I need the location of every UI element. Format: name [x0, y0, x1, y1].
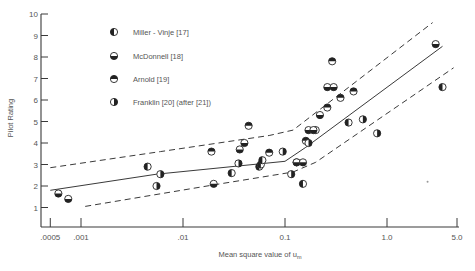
y-tick-label: 9	[34, 32, 39, 41]
x-tick-label: 1.0	[381, 233, 393, 242]
y-tick-label: 5	[34, 118, 39, 127]
data-point	[65, 195, 72, 202]
data-point	[279, 148, 286, 155]
legend-label: McDonnell [18]	[133, 52, 183, 61]
legend: Miller - Vinje [17]McDonnell [18]Arnold …	[110, 28, 211, 107]
data-point	[345, 119, 352, 126]
y-axis: 12345678910	[29, 10, 48, 227]
y-tick-label: 10	[29, 10, 38, 19]
pilot-rating-chart: 12345678910 .0005.001.010.11.05.0 Miller…	[0, 0, 475, 271]
data-points	[55, 41, 446, 203]
data-point	[235, 160, 242, 167]
data-point	[299, 180, 306, 187]
data-point	[305, 139, 312, 146]
data-point	[337, 94, 344, 101]
data-point	[439, 84, 446, 91]
data-point	[266, 149, 273, 156]
data-point	[259, 157, 266, 164]
data-point	[236, 146, 243, 153]
y-tick-label: 4	[34, 139, 39, 148]
y-tick-label: 7	[34, 75, 39, 84]
x-tick-label: .001	[73, 233, 89, 242]
data-point	[316, 111, 323, 118]
data-point	[310, 127, 317, 134]
legend-label: Arnold [19]	[133, 75, 169, 84]
y-tick-label: 2	[34, 182, 39, 191]
y-axis-title: Pilot Rating	[6, 99, 15, 137]
x-axis: .0005.001.010.11.05.0	[40, 218, 463, 242]
legend-label: Miller - Vinje [17]	[133, 28, 189, 37]
half-bottom-filled-circle-icon	[110, 52, 117, 59]
data-point	[55, 190, 62, 197]
data-point	[210, 180, 217, 187]
data-point	[359, 116, 366, 123]
x-tick-label: .0005	[40, 233, 61, 242]
stray-dot	[427, 181, 429, 183]
y-tick-label: 8	[34, 53, 39, 62]
lower-bound-line	[85, 68, 453, 207]
data-point	[144, 163, 151, 170]
data-point	[245, 122, 252, 129]
x-tick-label: 0.1	[279, 233, 291, 242]
data-point	[228, 170, 235, 177]
mean-line	[50, 46, 442, 190]
data-point	[432, 41, 439, 48]
x-tick-label: .01	[177, 233, 189, 242]
x-axis-title: Mean square value of um	[219, 250, 302, 260]
data-point	[374, 130, 381, 137]
legend-label: Franklin [20] (after [21])	[133, 98, 211, 107]
x-tick-label: 5.0	[451, 233, 463, 242]
half-left-filled-circle-icon	[110, 28, 117, 35]
y-tick-label: 3	[34, 161, 39, 170]
data-point	[208, 148, 215, 155]
data-point	[153, 182, 160, 189]
data-point	[157, 171, 164, 178]
data-point	[330, 84, 337, 91]
half-right-filled-circle-icon	[110, 98, 117, 105]
y-tick-label: 6	[34, 96, 39, 105]
fit-lines	[50, 23, 453, 207]
data-point	[324, 104, 331, 111]
data-point	[350, 88, 357, 95]
half-top-filled-circle-icon	[110, 75, 117, 82]
data-point	[329, 58, 336, 65]
data-point	[241, 139, 248, 146]
data-point	[288, 171, 295, 178]
y-tick-label: 1	[34, 204, 39, 213]
data-point	[299, 159, 306, 166]
